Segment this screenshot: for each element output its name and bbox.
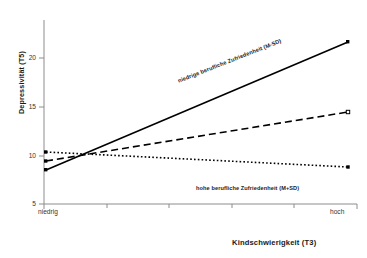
regression-line-chart: Depressivität (T5) 20 15 10 5 (0, 0, 367, 258)
series-line-high-satisfaction (46, 152, 348, 167)
x-axis-ticks (44, 204, 357, 209)
y-axis-ticks (39, 58, 44, 204)
series-marker-high-satisfaction-start (44, 150, 47, 153)
series-line-mid-satisfaction (46, 112, 348, 161)
x-axis-title: Kindschwierigkeit (T3) (232, 238, 316, 247)
annotation-high-satisfaction: hohe berufliche Zufriedenheit (M+SD) (196, 185, 299, 191)
series-marker-low-satisfaction-end (346, 40, 349, 43)
plot-area (0, 0, 367, 258)
series-marker-low-satisfaction-start (44, 168, 47, 171)
x-tick-label-low: niedrig (38, 208, 58, 215)
series-line-low-satisfaction (46, 42, 348, 170)
series-marker-high-satisfaction-end (346, 165, 349, 168)
x-tick-label-high: hoch (330, 208, 344, 215)
series-marker-mid-satisfaction-start (44, 159, 47, 162)
